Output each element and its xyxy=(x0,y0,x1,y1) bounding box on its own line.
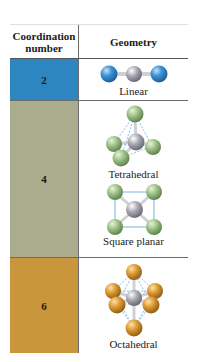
coordination-number: 6 xyxy=(41,300,47,312)
header-geometry-label: Geometry xyxy=(110,36,157,48)
coordination-cell: 2 xyxy=(10,59,79,100)
coordination-geometry-table: Coordination number Geometry 2 Linear 4 xyxy=(10,24,188,353)
geometry-label: Square planar xyxy=(103,235,164,247)
geometry-label: Tetrahedral xyxy=(109,168,159,180)
coordination-number: 2 xyxy=(41,74,47,86)
coordination-number: 4 xyxy=(41,173,47,185)
tetrahedral-molecule-icon xyxy=(99,104,169,168)
table-row: 6 Octahedral xyxy=(10,258,188,353)
linear-molecule-icon xyxy=(94,63,174,85)
geometry-cell: Tetrahedral Square planar xyxy=(79,101,188,257)
geometry-cell: Octahedral xyxy=(79,258,188,353)
octahedral-molecule-icon xyxy=(99,262,169,338)
table-row: 2 Linear xyxy=(10,59,188,101)
geometry-label: Octahedral xyxy=(109,338,157,350)
coordination-cell: 6 xyxy=(10,258,79,353)
geometry-label: Linear xyxy=(119,85,148,97)
header-geometry: Geometry xyxy=(79,25,188,58)
geometry-cell: Linear xyxy=(79,59,188,100)
header-coordination-label: Coordination number xyxy=(10,30,78,54)
coordination-cell: 4 xyxy=(10,101,79,257)
header-coordination: Coordination number xyxy=(10,25,79,58)
table-header: Coordination number Geometry xyxy=(10,24,188,59)
square-planar-molecule-icon xyxy=(99,183,169,235)
table-row: 4 Tetrahedral xyxy=(10,101,188,258)
